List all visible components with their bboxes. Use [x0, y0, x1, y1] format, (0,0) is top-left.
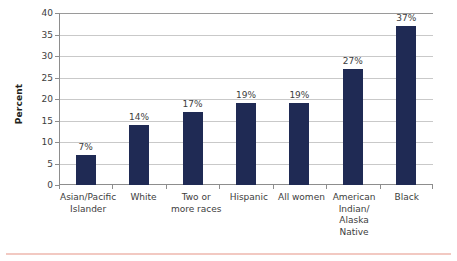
x-axis-category-label: Asian/PacificIslander	[59, 192, 117, 238]
bar-cell: 7%	[59, 13, 112, 185]
y-tick-label: 35	[31, 30, 53, 40]
bar-value-label: 19%	[289, 90, 309, 100]
x-tick-mark	[432, 185, 433, 189]
bar-value-label: 19%	[236, 90, 256, 100]
bar: 17%	[183, 112, 203, 185]
x-axis-labels: Asian/PacificIslanderWhiteTwo ormore rac…	[59, 192, 433, 238]
bar-value-label: 7%	[79, 142, 93, 152]
bar: 37%	[396, 26, 416, 185]
bottom-accent-rule	[6, 253, 451, 255]
bar-value-label: 37%	[396, 13, 416, 23]
x-axis-category-line: Indian/	[329, 204, 380, 216]
y-axis-title-label: Percent	[14, 64, 24, 144]
y-tick-label: 10	[31, 137, 53, 147]
y-tick-label: 20	[31, 94, 53, 104]
x-axis-category-line: Hispanic	[223, 192, 274, 204]
x-axis-category-line: Two or	[171, 192, 222, 204]
y-tick-label: 0	[31, 180, 53, 190]
bar-value-label: 17%	[183, 99, 203, 109]
bar-chart: Percent 4035302520151050 7%14%17%19%19%2…	[0, 0, 457, 261]
bar: 19%	[289, 103, 309, 185]
x-axis-category-label: Hispanic	[222, 192, 275, 238]
x-tick-mark	[219, 185, 220, 189]
y-tick-label: 5	[31, 159, 53, 169]
x-axis-category-line: more races	[171, 204, 222, 216]
x-axis-category-label: Two ormore races	[170, 192, 223, 238]
bar-series: 7%14%17%19%19%27%37%	[59, 13, 433, 185]
bar-cell: 14%	[112, 13, 165, 185]
x-tick-mark	[380, 185, 381, 189]
x-axis-category-line: Asian/Pacific	[60, 192, 116, 204]
y-axis-title: Percent	[14, 0, 24, 64]
x-axis-category-label: All women	[275, 192, 328, 238]
x-axis-category-label: Black	[380, 192, 433, 238]
x-axis-category-line: Native	[329, 227, 380, 239]
bar-cell: 37%	[380, 13, 433, 185]
y-tick-label: 40	[31, 8, 53, 18]
bar-cell: 27%	[326, 13, 379, 185]
x-tick-mark	[273, 185, 274, 189]
x-axis-category-label: White	[117, 192, 170, 238]
bar: 14%	[129, 125, 149, 185]
x-tick-mark	[59, 185, 60, 189]
x-tick-mark	[112, 185, 113, 189]
bar-cell: 19%	[219, 13, 272, 185]
x-tick-mark	[326, 185, 327, 189]
x-tick-mark	[166, 185, 167, 189]
x-axis-category-line: Black	[381, 192, 432, 204]
x-axis-category-line: All women	[276, 192, 327, 204]
bar: 27%	[343, 69, 363, 185]
x-axis-category-line: American	[329, 192, 380, 204]
x-axis-category-line: Alaska	[329, 215, 380, 227]
bar-value-label: 27%	[343, 56, 363, 66]
x-axis-category-line: White	[118, 192, 169, 204]
y-tick-label: 25	[31, 73, 53, 83]
y-tick-label: 30	[31, 51, 53, 61]
bar: 19%	[236, 103, 256, 185]
bar-cell: 19%	[273, 13, 326, 185]
x-axis-category-line: Islander	[60, 204, 116, 216]
bar-value-label: 14%	[129, 112, 149, 122]
bar: 7%	[76, 155, 96, 185]
x-axis-category-label: AmericanIndian/AlaskaNative	[328, 192, 381, 238]
bar-cell: 17%	[166, 13, 219, 185]
y-tick-label: 15	[31, 116, 53, 126]
plot-area: 4035302520151050 7%14%17%19%19%27%37%	[59, 13, 433, 185]
